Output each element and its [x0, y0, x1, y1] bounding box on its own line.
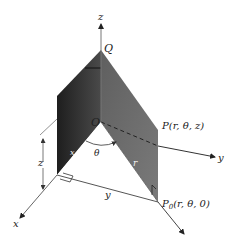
theta-label: θ [94, 148, 100, 158]
x-dim-label: x [70, 148, 75, 157]
p-label: P(r, θ, z) [161, 120, 204, 131]
r-label: r [133, 158, 138, 168]
y-dim-label: y [104, 189, 111, 200]
z-dimension-top-tick [40, 119, 57, 135]
p0-label: P0(r, θ, 0) [161, 198, 210, 211]
q-label: Q [104, 42, 113, 55]
y-axis-label: y [217, 152, 224, 163]
origin-label: O [91, 116, 100, 129]
z-axis-label: z [97, 11, 104, 22]
x-axis [20, 175, 57, 218]
p0-label-rest: (r, θ, 0) [173, 198, 210, 209]
cylindrical-coordinates-diagram: z Q O P(r, θ, z) y θ r x z y x P0(r, θ, … [0, 0, 231, 250]
x-axis-label: x [13, 218, 19, 229]
y-axis [158, 146, 215, 157]
z-dim-label: z [37, 157, 44, 168]
